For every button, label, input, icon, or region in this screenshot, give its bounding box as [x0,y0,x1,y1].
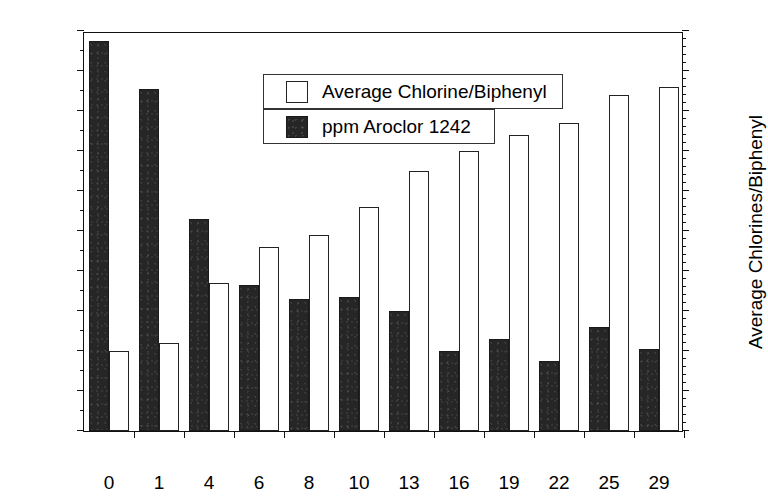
bar-group [84,33,134,431]
bar-average-chlorine-biphenyl [359,207,379,431]
x-tick-label: 1 [134,473,184,492]
legend-swatch-light [286,81,308,103]
x-tick [334,431,335,438]
legend-item-ppm-aroclor-1242: ppm Aroclor 1242 [263,109,495,144]
bar-average-chlorine-biphenyl [159,343,179,431]
y-tick-left [77,310,84,311]
x-tick-label: 19 [484,473,534,492]
bar-ppm-aroclor-1242 [539,361,559,431]
bar-ppm-aroclor-1242 [489,339,509,431]
y-tick-left [77,230,84,231]
bar-average-chlorine-biphenyl [659,87,679,431]
legend-swatch-dark [286,116,308,138]
bar-ppm-aroclor-1242 [239,285,259,431]
x-tick-label: 25 [584,473,634,492]
bar-average-chlorine-biphenyl [209,283,229,431]
bar-group [634,33,684,431]
x-tick [584,431,585,438]
bar-ppm-aroclor-1242 [139,89,159,431]
x-tick-label: 0 [84,473,134,492]
y-tick-left [77,70,84,71]
x-tick-label: 29 [634,473,684,492]
bar-group [584,33,634,431]
x-tick [434,431,435,438]
y-tick-left [77,190,84,191]
bar-ppm-aroclor-1242 [589,327,609,431]
bar-group [134,33,184,431]
y-tick-left [77,430,84,431]
bar-average-chlorine-biphenyl [559,123,579,431]
legend-label: ppm Aroclor 1242 [322,117,471,136]
legend-item-average-chlorine-biphenyl: Average Chlorine/Biphenyl [263,74,563,109]
x-tick-label: 8 [284,473,334,492]
plot-area: 020406080100120140160180200 33.13.23.33.… [83,32,683,432]
bar-ppm-aroclor-1242 [289,299,309,431]
bar-ppm-aroclor-1242 [339,297,359,431]
x-tick-label: 16 [434,473,484,492]
legend-label: Average Chlorine/Biphenyl [322,82,547,101]
bar-average-chlorine-biphenyl [109,351,129,431]
bar-group [184,33,234,431]
bar-ppm-aroclor-1242 [89,41,109,431]
bar-average-chlorine-biphenyl [509,135,529,431]
x-tick [534,431,535,438]
bar-ppm-aroclor-1242 [439,351,459,431]
x-tick-label: 6 [234,473,284,492]
bar-average-chlorine-biphenyl [459,151,479,431]
bar-ppm-aroclor-1242 [389,311,409,431]
bar-ppm-aroclor-1242 [189,219,209,431]
y-tick-left [77,390,84,391]
chart-figure: ppm Aroclor 1242 Average Chlorines/Biphe… [0,0,768,501]
x-tick [484,431,485,438]
y-tick-left [77,150,84,151]
y-axis-right-title: Average Chlorines/Biphenyl [745,115,767,349]
x-tick [184,431,185,438]
bar-average-chlorine-biphenyl [609,95,629,431]
y-tick-left [77,270,84,271]
y-tick-right [682,30,689,31]
x-tick [284,431,285,438]
bar-average-chlorine-biphenyl [309,235,329,431]
y-tick-left [77,350,84,351]
bar-average-chlorine-biphenyl [259,247,279,431]
x-tick [684,431,685,438]
x-tick-label: 10 [334,473,384,492]
x-tick [134,431,135,438]
bar-average-chlorine-biphenyl [409,171,429,431]
x-tick-label: 22 [534,473,584,492]
x-tick [234,431,235,438]
x-tick [634,431,635,438]
x-tick-label: 4 [184,473,234,492]
bar-ppm-aroclor-1242 [639,349,659,431]
x-tick [384,431,385,438]
y-tick-left [77,30,84,31]
y-tick-left [77,110,84,111]
x-tick-label: 13 [384,473,434,492]
